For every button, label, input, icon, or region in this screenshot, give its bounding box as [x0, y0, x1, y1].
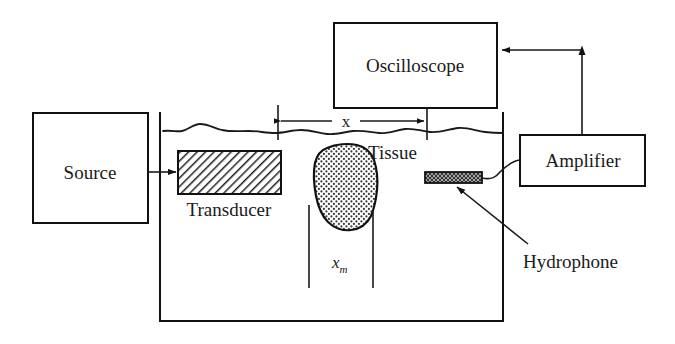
hydrophone-cable — [482, 160, 520, 179]
x-dimension-label: x — [342, 112, 351, 131]
oscilloscope-block[interactable]: Oscilloscope — [334, 23, 497, 108]
transducer-label: Transducer — [187, 199, 272, 220]
oscilloscope-label: Oscilloscope — [366, 55, 464, 76]
tissue-sample[interactable]: Tissue — [314, 142, 417, 230]
source-block[interactable]: Source — [33, 113, 148, 223]
water-surface-line — [163, 124, 503, 134]
tissue-label: Tissue — [368, 142, 417, 163]
amplifier-label: Amplifier — [546, 150, 622, 171]
hydrophone-callout-arrow: Hydrophone — [457, 187, 618, 272]
xm-label-group: xm — [331, 253, 348, 275]
transducer[interactable]: Transducer — [178, 151, 281, 220]
source-label: Source — [64, 162, 117, 183]
amplifier-block[interactable]: Amplifier — [520, 135, 645, 186]
xm-subscript: m — [340, 263, 348, 275]
figure-canvas: Source Transducer Tissue xm — [0, 0, 675, 344]
hydrophone[interactable] — [425, 160, 520, 183]
hydrophone-label: Hydrophone — [523, 251, 618, 272]
x-dimension: x — [278, 105, 427, 140]
amplifier-to-oscilloscope-connector — [502, 46, 586, 136]
